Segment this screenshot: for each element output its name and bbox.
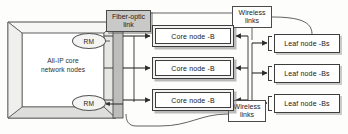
leaf-node-bracket-icon	[268, 36, 272, 51]
leaf-node-box[interactable]: Leaf node -Bs	[274, 64, 340, 83]
core-network-label-line1: All-IP core	[26, 56, 100, 65]
wireless-links-bottom-line1: Wireless	[234, 103, 261, 111]
wireless-links-top-line1: Wireless	[239, 9, 266, 17]
core-node-label: Core node -B	[155, 92, 231, 108]
network-diagram-canvas: All-IP core network nodes RM RM Fiber-op…	[0, 0, 348, 134]
wireless-links-bottom-line2: links	[234, 111, 261, 119]
fiber-optic-link-label[interactable]: Fiber-optic link	[106, 10, 151, 32]
fiber-optic-link-label-line1: Fiber-optic	[112, 13, 145, 21]
wireless-links-label-top[interactable]: Wireless links	[232, 6, 272, 28]
fiber-optic-trunk	[113, 30, 134, 118]
core-node-box[interactable]: Core node -B	[152, 57, 234, 79]
core-node-box[interactable]: Core node -B	[152, 89, 234, 111]
core-node-label: Core node -B	[155, 28, 231, 44]
leaf-node-box[interactable]: Leaf node -Bs	[274, 34, 340, 53]
wireless-links-top-line2: links	[239, 17, 266, 25]
core-node-box[interactable]: Core node -B	[152, 25, 234, 47]
core-network-label-line2: network nodes	[26, 65, 100, 74]
fiber-optic-link-label-line2: link	[112, 21, 145, 29]
leaf-node-bracket-icon	[268, 96, 272, 111]
core-network-label: All-IP core network nodes	[26, 56, 100, 74]
wireless-link-arrows	[236, 36, 267, 103]
leaf-node-box[interactable]: Leaf node -Bs	[274, 94, 340, 113]
core-node-label: Core node -B	[155, 60, 231, 76]
rm-node-top[interactable]: RM	[72, 33, 106, 49]
rm-node-bottom[interactable]: RM	[72, 95, 106, 111]
leaf-node-bracket-icon	[268, 66, 272, 81]
